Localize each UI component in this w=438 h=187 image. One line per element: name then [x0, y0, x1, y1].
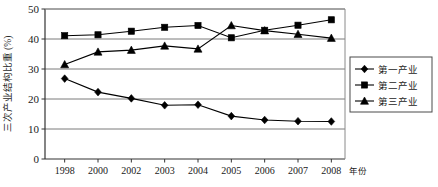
data-point-diamond [195, 101, 202, 109]
y-axis-tick-label: 40 [28, 33, 40, 45]
data-point-triangle [161, 42, 169, 49]
legend-item-label: 第一产业 [378, 64, 418, 75]
x-axis-tick-label: 2006 [255, 165, 275, 176]
y-axis-tick-label: 10 [28, 123, 40, 135]
axes [45, 9, 345, 159]
data-point-diamond [228, 112, 235, 120]
chart-legend: 第一产业第二产业第三产业 [350, 57, 432, 112]
y-axis-tick-label: 20 [28, 93, 40, 105]
chart-container: 01020304050 1998200020022003200420052006… [0, 0, 438, 187]
legend-item-label: 第二产业 [378, 80, 418, 91]
data-point-square [228, 35, 234, 41]
x-axis-tick-labels: 199820002002200320042005200620072008 [55, 159, 342, 176]
data-series [61, 17, 336, 126]
data-point-square [328, 17, 334, 23]
y-axis-title: 三次产业结构比重 (%) [2, 36, 14, 133]
x-axis-tick-label: 2002 [121, 165, 141, 176]
data-point-square [295, 22, 301, 28]
line-chart: 01020304050 1998200020022003200420052006… [0, 0, 438, 187]
y-axis-title-label: 三次产业结构比重 (%) [2, 36, 14, 133]
x-axis-tick-label: 2004 [188, 165, 208, 176]
data-point-square [162, 24, 168, 30]
y-axis-tick-label: 0 [34, 153, 40, 165]
x-axis-tick-label: 2003 [155, 165, 175, 176]
data-point-diamond [128, 95, 135, 103]
x-axis-tick-label: 1998 [55, 165, 75, 176]
x-axis-tick-label: 2007 [288, 165, 308, 176]
data-point-diamond [61, 75, 68, 83]
data-point-diamond [161, 102, 168, 110]
data-point-triangle [227, 22, 235, 29]
data-point-diamond [328, 118, 335, 126]
series-line [65, 79, 332, 122]
data-point-diamond [95, 88, 102, 96]
data-point-square [128, 28, 134, 34]
y-axis-tick-labels: 01020304050 [28, 3, 45, 165]
y-axis-tick-label: 50 [28, 3, 40, 15]
data-point-triangle [61, 61, 69, 68]
data-point-square [95, 32, 101, 38]
x-axis-title: 年份 [349, 166, 367, 176]
data-point-square [62, 33, 68, 39]
x-axis-tick-label: 2005 [221, 165, 241, 176]
legend-item-1[interactable]: 第一产业 [355, 64, 418, 75]
x-axis-tick-label: 2000 [88, 165, 108, 176]
series-1 [61, 75, 334, 126]
legend-item-label: 第三产业 [378, 96, 418, 107]
data-point-square [361, 82, 367, 88]
data-point-diamond [261, 116, 268, 124]
x-axis-title-label: 年份 [349, 166, 367, 176]
y-axis-tick-label: 30 [28, 63, 40, 75]
data-point-diamond [295, 117, 302, 125]
data-point-square [195, 22, 201, 28]
x-axis-tick-label: 2008 [321, 165, 341, 176]
series-2 [62, 17, 335, 41]
